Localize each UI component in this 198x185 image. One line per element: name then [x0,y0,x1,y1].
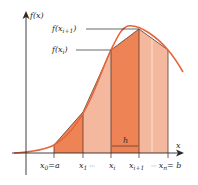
trapezoid-xi-xi1 [111,29,139,153]
tick-x0: x0=a [40,161,60,171]
trapezoid-rule-diagram: h f(x) x f(xi+1) f(xi) x0=a x1 ··· xi xi… [0,0,198,185]
trapezoid-x1-xi [83,50,111,153]
f-xi1-label: f(xi+1) [51,24,76,34]
trapezoid-xi1-xn [139,29,168,153]
tick-xi: xi [109,161,116,171]
x-axis-label: x [176,141,181,150]
tick-x1: x1 ··· [79,161,95,171]
tick-xi1: xi+1 [129,161,144,171]
h-label: h [123,136,128,145]
f-xi-label: f(xi) [51,45,68,55]
tick-xn: ··· xn= b [151,161,181,171]
y-axis-label: f(x) [29,11,44,20]
